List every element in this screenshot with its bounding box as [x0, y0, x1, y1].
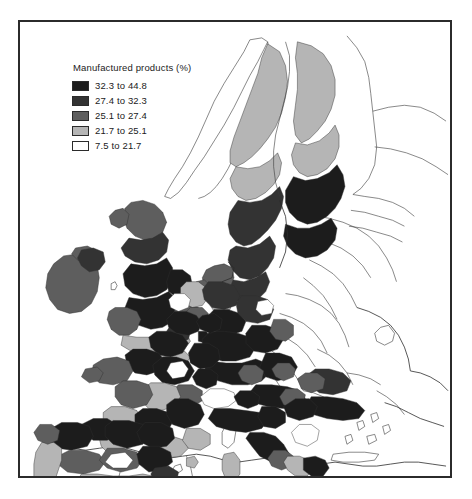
legend-swatch-class-3: [72, 111, 89, 121]
legend-label-class-1: 32.3 to 44.8: [95, 80, 147, 91]
map-legend: Manufactured products (%) 32.3 to 44.8 2…: [72, 62, 191, 153]
map-frame: .c0 { fill:#1c1c1c; } .c1 { fill:#333333…: [18, 20, 452, 478]
legend-swatch-class-5: [72, 141, 89, 151]
legend-item: 7.5 to 21.7: [72, 138, 191, 153]
choropleth-figure: .c0 { fill:#1c1c1c; } .c1 { fill:#333333…: [0, 0, 472, 499]
legend-item: 21.7 to 25.1: [72, 123, 191, 138]
legend-label-class-2: 27.4 to 32.3: [95, 95, 147, 106]
legend-item: 32.3 to 44.8: [72, 78, 191, 93]
legend-label-class-4: 21.7 to 25.1: [95, 125, 147, 136]
legend-label-class-3: 25.1 to 27.4: [95, 110, 147, 121]
legend-swatch-class-4: [72, 126, 89, 136]
legend-title: Manufactured products (%): [73, 62, 191, 73]
legend-label-class-5: 7.5 to 21.7: [95, 140, 142, 151]
legend-swatch-class-1: [72, 81, 89, 91]
legend-item: 27.4 to 32.3: [72, 93, 191, 108]
legend-item: 25.1 to 27.4: [72, 108, 191, 123]
legend-swatch-class-2: [72, 96, 89, 106]
